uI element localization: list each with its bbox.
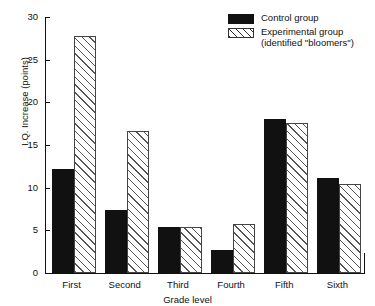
x-tick-label-first: First: [45, 279, 98, 290]
bar-fifth-control: [264, 119, 286, 273]
bar-sixth-experimental: [339, 184, 361, 273]
bar-second-control: [105, 210, 127, 273]
bar-group-second: [105, 17, 149, 273]
bar-fourth-control: [211, 250, 233, 273]
bar-group-third: [158, 17, 202, 273]
bar-fourth-experimental: [233, 224, 255, 273]
x-tick-label-fifth: Fifth: [258, 279, 311, 290]
bar-second-experimental: [127, 131, 149, 273]
x-axis-title: Grade level: [0, 294, 375, 305]
x-axis-line: [45, 273, 365, 274]
x-tick-label-fourth: Fourth: [205, 279, 258, 290]
bar-first-control: [52, 169, 74, 273]
y-tick-label-5: 5: [16, 225, 38, 235]
bar-group-fifth: [264, 17, 308, 273]
bar-fifth-experimental: [286, 123, 308, 273]
y-tick-label-10: 10: [16, 183, 38, 193]
bar-group-sixth: [317, 17, 361, 273]
bar-third-experimental: [180, 227, 202, 273]
bar-third-control: [158, 227, 180, 273]
x-tick-label-third: Third: [151, 279, 204, 290]
x-tick-label-sixth: Sixth: [311, 279, 364, 290]
y-tick-label-30: 30: [16, 12, 38, 22]
bar-groups: [45, 17, 365, 273]
y-tick-label-0: 0: [16, 268, 38, 278]
bar-sixth-control: [317, 178, 339, 273]
iq-increase-bar-chart: Control group Experimental group (identi…: [0, 0, 375, 306]
bar-first-experimental: [74, 36, 96, 273]
y-tick-0: [45, 273, 50, 274]
x-tick-label-second: Second: [98, 279, 151, 290]
bar-group-first: [52, 17, 96, 273]
y-axis-title: I.Q. Increase (points): [19, 42, 30, 162]
bar-group-fourth: [211, 17, 255, 273]
